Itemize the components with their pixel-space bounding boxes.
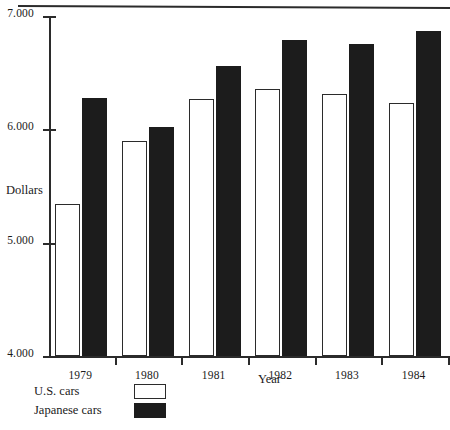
x-tick [381,356,383,365]
y-tick-5.000: 5.000 [43,243,56,245]
bar-japanese-cars-1980 [149,127,174,356]
y-tick-7.000: 7.000 [43,16,56,18]
bar-japanese-cars-1979 [82,98,107,356]
x-tick-label-1984: 1984 [402,369,426,381]
bar-japanese-cars-1982 [282,40,307,356]
bar-us-cars-1984 [389,103,414,356]
legend-label-japanese-cars: Japanese cars [34,403,134,418]
bar-us-cars-1979 [55,204,80,356]
legend: U.S. cars Japanese cars [34,382,166,420]
legend-item-japanese-cars: Japanese cars [34,401,166,420]
y-axis-title: Dollars [6,183,43,198]
x-tick [115,356,117,365]
bar-japanese-cars-1983 [349,44,374,356]
x-tick-label-1979: 1979 [68,369,92,381]
x-tick [248,356,250,365]
legend-item-us-cars: U.S. cars [34,382,166,401]
x-tick-label-1980: 1980 [135,369,159,381]
plot-area: 4.0005.0006.0007.000 1979198019811982198… [49,17,449,357]
legend-label-us-cars: U.S. cars [34,384,134,399]
chart-figure: 4.0005.0006.0007.000 1979198019811982198… [0,0,450,430]
legend-swatch-us-cars [134,384,166,399]
y-tick-label: 4.000 [7,347,34,359]
bar-us-cars-1983 [322,94,347,356]
x-tick [181,356,183,365]
bar-us-cars-1980 [122,141,147,356]
x-axis-title: Year [258,372,281,387]
bar-japanese-cars-1981 [216,66,241,356]
y-tick-label: 6.000 [7,120,34,132]
y-tick-label: 7.000 [7,7,34,19]
x-tick [315,356,317,365]
bar-us-cars-1982 [255,89,280,356]
y-axis-line [49,17,51,358]
y-tick-4.000: 4.000 [43,356,56,358]
bar-us-cars-1981 [189,99,214,356]
top-rule-divider [18,5,450,9]
bar-japanese-cars-1984 [416,31,441,356]
legend-swatch-japanese-cars [134,403,166,418]
y-tick-6.000: 6.000 [43,129,56,131]
x-tick-label-1981: 1981 [202,369,226,381]
x-tick-label-1983: 1983 [335,369,359,381]
y-tick-label: 5.000 [7,234,34,246]
